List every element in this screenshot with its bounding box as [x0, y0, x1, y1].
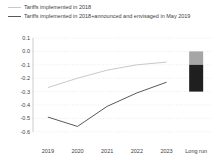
legend-label: Tariffs implemented in 2018+announced an…: [24, 13, 190, 19]
y-tick-label: -0.1: [21, 62, 30, 68]
plot-area: 0.10.0-0.1-0.2-0.3-0.4-0.5-0.62019202020…: [0, 0, 224, 166]
x-tick-label: Long run: [185, 148, 207, 154]
long-run-bar-segment-tariffs-implemented-2018: [189, 51, 203, 64]
legend-item-implemented: Tariffs implemented in 2018: [8, 4, 190, 10]
legend-item-implemented-plus-announced: Tariffs implemented in 2018+announced an…: [8, 13, 190, 19]
line-swatch-implemented-plus-announced: [8, 16, 21, 17]
y-tick-label: -0.5: [21, 115, 30, 121]
legend-label: Tariffs implemented in 2018: [24, 4, 91, 10]
x-tick-label: 2021: [101, 148, 113, 154]
chart-legend: Tariffs implemented in 2018 Tariffs impl…: [8, 4, 190, 19]
y-tick-label: 0.0: [22, 48, 30, 54]
long-run-bar-segment-announced-and-envisaged-additional: [189, 65, 203, 92]
x-tick-label: 2023: [160, 148, 172, 154]
y-tick-label: -0.6: [21, 129, 30, 135]
y-tick-label: -0.2: [21, 75, 30, 81]
tariff-impact-chart: Tariffs implemented in 2018 Tariffs impl…: [0, 0, 224, 166]
series-line-0: [48, 62, 167, 87]
y-tick-label: -0.3: [21, 89, 30, 95]
x-tick-label: 2019: [42, 148, 54, 154]
x-tick-label: 2022: [131, 148, 143, 154]
line-swatch-implemented: [8, 7, 21, 8]
x-tick-label: 2020: [71, 148, 83, 154]
series-line-1: [48, 82, 167, 126]
y-tick-label: -0.4: [21, 102, 30, 108]
y-tick-label: 0.1: [22, 35, 30, 41]
